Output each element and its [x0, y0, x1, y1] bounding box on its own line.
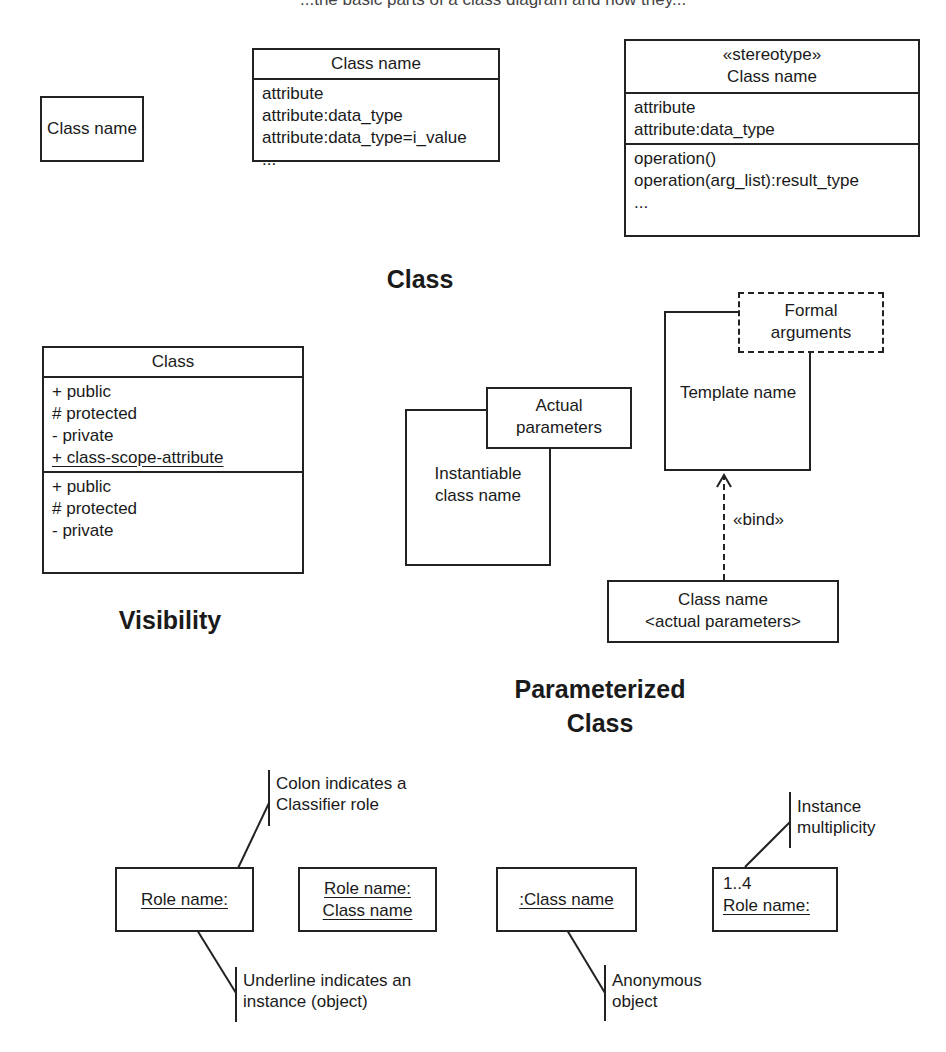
class-name: Class name: [626, 66, 918, 88]
attribute-row: ...: [262, 149, 498, 171]
note-anonymous: Anonymous object: [612, 970, 702, 1012]
anonymous-object-box: :Class name: [496, 867, 637, 932]
role-name-label: Role name:: [723, 896, 810, 915]
params-line: Actual: [488, 395, 630, 417]
section-title-class: Class: [360, 263, 480, 295]
attribute-row: + public: [52, 381, 302, 403]
note-multiplicity: Instance multiplicity: [797, 796, 875, 838]
role-name-label: Role name:: [141, 889, 228, 911]
note-line: Underline indicates an: [243, 970, 411, 991]
note-line: instance (object): [243, 991, 411, 1012]
note-underline: Underline indicates an instance (object): [243, 970, 411, 1012]
section-title-visibility: Visibility: [90, 604, 250, 636]
bound-class-box: Class name <actual parameters>: [607, 580, 839, 643]
stereotype-label: «stereotype»: [626, 44, 918, 66]
class-name: Class: [44, 348, 302, 376]
note-line: multiplicity: [797, 817, 875, 838]
class-name: Class name: [254, 50, 498, 78]
params-line: parameters: [488, 417, 630, 439]
attribute-row: attribute:data_type: [262, 105, 498, 127]
operations-compartment: operation() operation(arg_list):result_t…: [626, 143, 918, 216]
role-name-label: Role name:: [324, 879, 411, 898]
note-line: Anonymous: [612, 970, 702, 991]
formal-line: arguments: [740, 322, 882, 344]
attribute-row: attribute:data_type=i_value: [262, 127, 498, 149]
title-line: Parameterized: [480, 672, 720, 706]
attributes-compartment: attribute attribute:data_type attribute:…: [254, 78, 498, 173]
name-line: Instantiable: [408, 463, 548, 485]
attribute-row: attribute:data_type: [634, 119, 918, 141]
actual-parameters-box: Actual parameters: [486, 387, 632, 449]
anonymous-class-label: :Class name: [519, 889, 613, 911]
bound-class-name: Class name: [609, 589, 837, 611]
template-name: Template name: [666, 382, 810, 404]
operation-row: ...: [634, 192, 918, 214]
multiplicity-label: 1..4: [723, 873, 836, 895]
formal-line: Formal: [740, 300, 882, 322]
formal-arguments-box: Formal arguments: [738, 292, 884, 353]
stereotype-class-box: «stereotype» Class name attribute attrib…: [624, 39, 920, 237]
attribute-class-box: Class name attribute attribute:data_type…: [252, 48, 500, 162]
attribute-row: - private: [52, 425, 302, 447]
instantiable-class-name: Instantiable class name: [408, 463, 548, 507]
note-colon: Colon indicates a Classifier role: [276, 773, 406, 815]
attributes-compartment: attribute attribute:data_type: [626, 92, 918, 143]
visibility-class-box: Class + public # protected - private + c…: [42, 346, 304, 574]
class-name: Class name: [47, 118, 137, 140]
note-line: Colon indicates a: [276, 773, 406, 794]
simple-class-box: Class name: [40, 96, 144, 162]
bind-label: «bind»: [733, 509, 784, 531]
role-class-box: Role name: Class name: [298, 867, 437, 932]
class-scope-attribute-row: + class-scope-attribute: [52, 447, 302, 469]
section-title-parameterized: Parameterized Class: [480, 672, 720, 740]
name-line: class name: [408, 485, 548, 507]
attribute-row: # protected: [52, 403, 302, 425]
attribute-row: attribute: [262, 83, 498, 105]
operation-row: operation(arg_list):result_type: [634, 170, 918, 192]
role-name-box: Role name:: [115, 867, 254, 932]
bound-class-params: <actual parameters>: [609, 611, 837, 633]
operation-row: operation(): [634, 148, 918, 170]
operations-compartment: + public # protected - private: [44, 471, 302, 544]
attributes-compartment: + public # protected - private + class-s…: [44, 376, 302, 471]
class-name-label: Class name: [323, 901, 413, 920]
note-line: Classifier role: [276, 794, 406, 815]
operation-row: # protected: [52, 498, 302, 520]
class-header: «stereotype» Class name: [626, 41, 918, 92]
note-line: Instance: [797, 796, 875, 817]
title-line: Class: [480, 706, 720, 740]
operation-row: - private: [52, 520, 302, 542]
operation-row: + public: [52, 476, 302, 498]
note-line: object: [612, 991, 702, 1012]
attribute-row: attribute: [634, 97, 918, 119]
multiplicity-box: 1..4 Role name:: [712, 867, 838, 932]
